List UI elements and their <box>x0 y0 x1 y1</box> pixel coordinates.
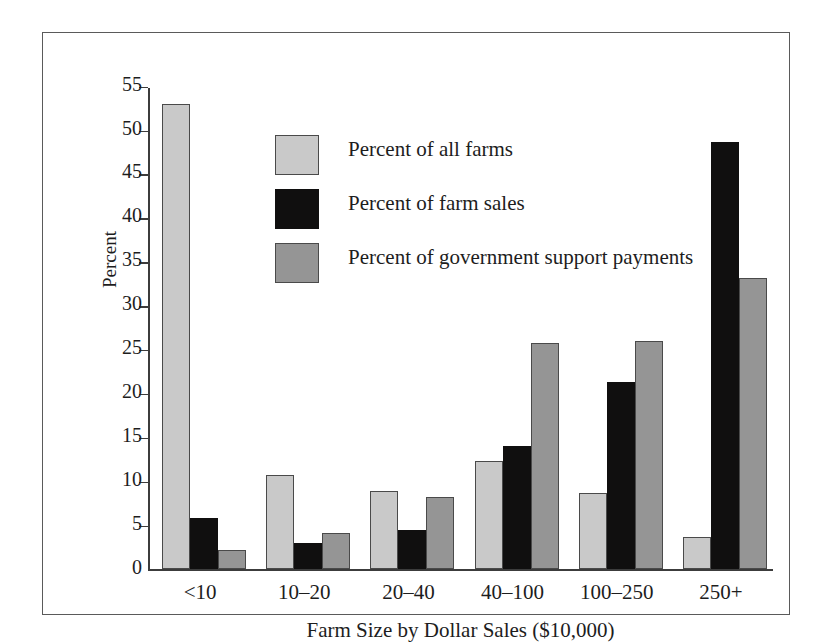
legend-item: Percent of all farms <box>275 131 715 185</box>
y-axis-tick-label: 45 <box>122 161 142 182</box>
x-axis-category-label: 40–100 <box>461 580 565 605</box>
bar <box>294 543 322 569</box>
legend-label: Percent of government support payments <box>348 245 693 270</box>
bar <box>162 104 190 569</box>
figure-frame: Percent 0510152025303540455055 <1010–202… <box>42 32 790 615</box>
bar <box>322 533 350 570</box>
y-axis-tick-label: 25 <box>122 337 142 358</box>
legend-label: Percent of farm sales <box>348 191 525 216</box>
y-axis-tick-label: 50 <box>122 118 142 139</box>
bar <box>370 491 398 569</box>
bar <box>218 550 246 569</box>
legend: Percent of all farmsPercent of farm sale… <box>275 131 715 293</box>
x-axis-category-label: 20–40 <box>356 580 460 605</box>
bar <box>635 341 663 569</box>
legend-item: Percent of government support payments <box>275 239 715 293</box>
bar <box>266 475 294 570</box>
bar <box>683 537 711 569</box>
y-axis-tick-label: 5 <box>132 513 142 534</box>
x-axis-category-label: 10–20 <box>252 580 356 605</box>
bar <box>579 493 607 569</box>
y-axis-tick-label: 10 <box>122 469 142 490</box>
y-axis-tick-label: 55 <box>122 74 142 95</box>
legend-item: Percent of farm sales <box>275 185 715 239</box>
y-axis-tick-label: 0 <box>132 557 142 578</box>
bar <box>711 142 739 570</box>
y-axis-line <box>148 88 150 571</box>
legend-label: Percent of all farms <box>348 137 513 162</box>
legend-color-swatch <box>275 189 319 229</box>
legend-color-swatch <box>275 243 319 283</box>
x-axis-title: Farm Size by Dollar Sales ($10,000) <box>148 618 773 643</box>
y-axis-tick-label: 40 <box>122 205 142 226</box>
bar-group <box>162 88 246 569</box>
bar <box>503 446 531 570</box>
x-axis-category-label: 100–250 <box>565 580 669 605</box>
y-axis-tick-label: 35 <box>122 249 142 270</box>
bar <box>398 530 426 570</box>
bar <box>475 461 503 570</box>
legend-color-swatch <box>275 135 319 175</box>
x-axis-category-label: <10 <box>148 580 252 605</box>
bar <box>426 497 454 570</box>
x-axis-category-label: 250+ <box>669 580 773 605</box>
y-axis-title: Percent <box>99 231 121 288</box>
y-axis-tick-label: 15 <box>122 425 142 446</box>
bar <box>190 518 218 570</box>
y-axis-tick-label: 30 <box>122 293 142 314</box>
bar <box>531 343 559 570</box>
bar <box>739 278 767 570</box>
y-axis-tick-label: 20 <box>122 381 142 402</box>
bar <box>607 382 635 569</box>
x-axis-line <box>148 569 773 571</box>
